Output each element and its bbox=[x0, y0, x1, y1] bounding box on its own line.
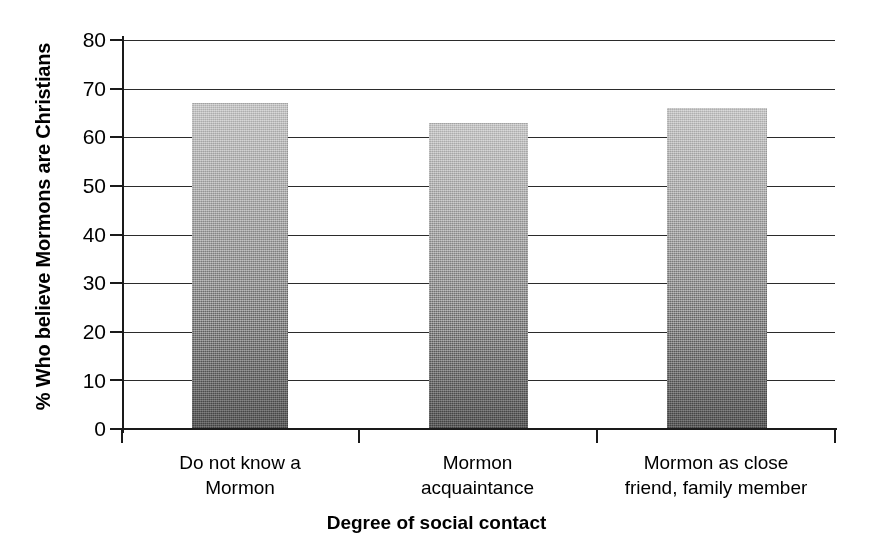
x-category-label-1-line-1: Mormon bbox=[359, 450, 596, 475]
y-tick-label-60: 60 bbox=[60, 126, 106, 147]
y-tick-label-80: 80 bbox=[60, 29, 106, 50]
y-tick-label-70: 70 bbox=[60, 78, 106, 99]
y-tick-label-50: 50 bbox=[60, 175, 106, 196]
y-tick-label-20: 20 bbox=[60, 321, 106, 342]
y-axis-line bbox=[122, 36, 124, 433]
x-category-label-2-line-2: friend, family member bbox=[597, 475, 835, 500]
y-tick-label-30: 30 bbox=[60, 272, 106, 293]
x-axis-line bbox=[120, 428, 837, 430]
bar-do-not-know-a-mormon[interactable] bbox=[192, 103, 288, 429]
x-category-label-1: Mormon acquaintance bbox=[359, 450, 596, 500]
y-tick-label-40: 40 bbox=[60, 224, 106, 245]
y-axis-title: % Who believe Mormons are Christians bbox=[32, 17, 55, 437]
x-tick-mark-2 bbox=[596, 429, 598, 443]
plot-area bbox=[122, 40, 835, 429]
y-tick-label-0: 0 bbox=[60, 418, 106, 439]
x-category-label-1-line-2: acquaintance bbox=[359, 475, 596, 500]
x-category-label-0-line-1: Do not know a bbox=[122, 450, 358, 475]
bar-chart: % Who believe Mormons are Christians 80 … bbox=[0, 0, 873, 547]
x-category-label-2: Mormon as close friend, family member bbox=[597, 450, 835, 500]
x-category-label-0: Do not know a Mormon bbox=[122, 450, 358, 500]
x-tick-mark-left-end bbox=[121, 429, 123, 443]
x-category-label-2-line-1: Mormon as close bbox=[597, 450, 835, 475]
y-tick-label-10: 10 bbox=[60, 370, 106, 391]
bar-mormon-acquaintance[interactable] bbox=[429, 123, 528, 429]
x-category-label-0-line-2: Mormon bbox=[122, 475, 358, 500]
bar-mormon-as-close-friend[interactable] bbox=[667, 108, 767, 429]
x-axis-title: Degree of social contact bbox=[0, 512, 873, 534]
x-tick-mark-right-end bbox=[834, 429, 836, 443]
x-tick-mark-1 bbox=[358, 429, 360, 443]
